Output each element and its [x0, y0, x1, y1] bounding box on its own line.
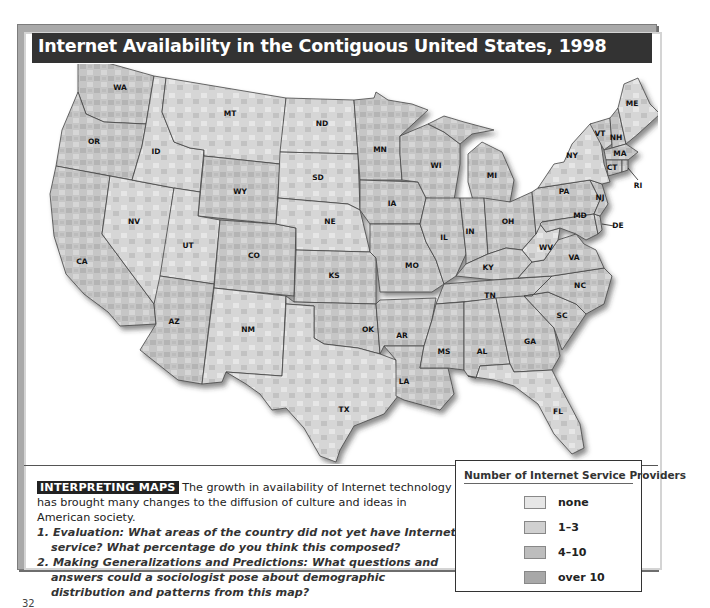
state-label-tx: TX	[339, 405, 350, 414]
state-label-nj: NJ	[595, 193, 604, 202]
state-label-il: IL	[440, 233, 448, 242]
state-label-ma: MA	[613, 149, 626, 158]
state-label-ms: MS	[438, 347, 451, 356]
page-number: 32	[22, 598, 35, 608]
map-title: Internet Availability in the Contiguous …	[38, 36, 607, 56]
state-label-mi: MI	[487, 171, 497, 180]
state-label-ar: AR	[396, 331, 408, 340]
legend-swatch	[524, 496, 546, 509]
state-label-wv: WV	[539, 243, 553, 252]
legend-swatch	[524, 571, 546, 584]
ri-pointer	[628, 168, 638, 180]
state-label-ca: CA	[76, 257, 88, 266]
interpreting-maps-caption: INTERPRETING MAPS The growth in availabi…	[37, 480, 457, 600]
state-label-vt: VT	[595, 129, 607, 138]
legend: Number of Internet Service Providers non…	[455, 460, 642, 592]
state-label-nh: NH	[610, 133, 623, 142]
state-label-mt: MT	[224, 109, 237, 118]
state-label-ct: CT	[607, 163, 619, 172]
legend-label: 1–3	[558, 521, 579, 534]
state-label-ga: GA	[524, 337, 536, 346]
state-label-in: IN	[465, 227, 474, 236]
state-label-wa: WA	[113, 83, 127, 92]
state-label-nv: NV	[128, 217, 140, 226]
state-label-nd: ND	[316, 119, 329, 128]
state-label-az: AZ	[168, 317, 180, 326]
state-label-id: ID	[151, 147, 160, 156]
legend-swatch	[524, 521, 546, 534]
legend-item-none: none	[524, 494, 589, 510]
state-label-nm: NM	[241, 325, 255, 334]
state-label-sc: SC	[557, 311, 568, 320]
legend-item-over-10: over 10	[524, 569, 605, 585]
us-map: WAORCAIDNVMTWYUTAZCONMNDSDNEKSOKTXMNIAMO…	[24, 64, 658, 464]
state-label-me: ME	[626, 99, 639, 108]
state-label-ok: OK	[362, 325, 375, 334]
interpreting-maps-tag: INTERPRETING MAPS	[37, 481, 179, 494]
question-2: 2. Making Generalizations and Prediction…	[37, 555, 457, 600]
state-nm	[202, 288, 286, 384]
legend-item-4-10: 4–10	[524, 544, 586, 560]
state-label-mo: MO	[405, 261, 419, 270]
legend-item-1-3: 1–3	[524, 519, 579, 535]
state-label-la: LA	[399, 377, 410, 386]
state-label-mn: MN	[373, 145, 387, 154]
legend-title: Number of Internet Service Providers	[464, 469, 686, 481]
state-label-pa: PA	[559, 187, 570, 196]
state-label-co: CO	[248, 251, 260, 260]
legend-label: 4–10	[558, 546, 586, 559]
state-label-ne: NE	[324, 217, 335, 226]
state-label-md: MD	[573, 211, 587, 220]
state-label-va: VA	[568, 253, 579, 262]
legend-label: over 10	[558, 571, 605, 584]
state-ri	[622, 160, 628, 172]
state-fl	[468, 364, 584, 454]
state-label-wi: WI	[430, 161, 441, 170]
state-label-ia: IA	[388, 199, 397, 208]
state-label-ky: KY	[482, 263, 494, 272]
state-label-ut: UT	[182, 241, 194, 250]
legend-rule	[464, 483, 633, 484]
legend-swatch	[524, 546, 546, 559]
state-label-de: DE	[612, 221, 623, 230]
state-label-oh: OH	[502, 217, 515, 226]
state-label-tn: TN	[484, 291, 495, 300]
state-label-fl: FL	[553, 407, 563, 416]
state-label-al: AL	[477, 347, 488, 356]
legend-label: none	[558, 496, 589, 509]
question-1: 1. Evaluation: What areas of the country…	[37, 525, 457, 555]
state-label-ny: NY	[566, 151, 578, 160]
state-label-ri: RI	[634, 181, 643, 190]
state-label-nc: NC	[574, 281, 586, 290]
state-label-ks: KS	[328, 271, 339, 280]
state-label-wy: WY	[233, 187, 247, 196]
state-label-or: OR	[88, 137, 100, 146]
state-wa	[78, 64, 154, 124]
state-me	[618, 78, 658, 144]
state-label-sd: SD	[312, 173, 324, 182]
